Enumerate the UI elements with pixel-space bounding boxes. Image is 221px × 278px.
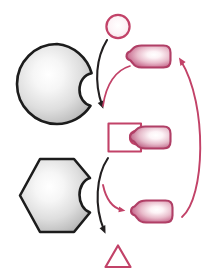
enzyme-substrate-diagram <box>0 0 221 278</box>
diagram-canvas: Enzyme-substrate specificity schematic <box>0 0 221 278</box>
flask-bound-middle <box>130 127 171 149</box>
arrow-pink-recycle-arc <box>181 61 200 217</box>
hexagon-enzyme <box>20 159 90 232</box>
round-enzyme <box>17 44 92 124</box>
triangle-substrate <box>106 246 131 268</box>
arrow-pink-upper <box>103 66 130 106</box>
circle-substrate <box>106 15 129 38</box>
arrow-pink-lower <box>103 185 122 210</box>
flask-product-bottom <box>131 201 173 223</box>
flask-product-top <box>127 46 171 68</box>
